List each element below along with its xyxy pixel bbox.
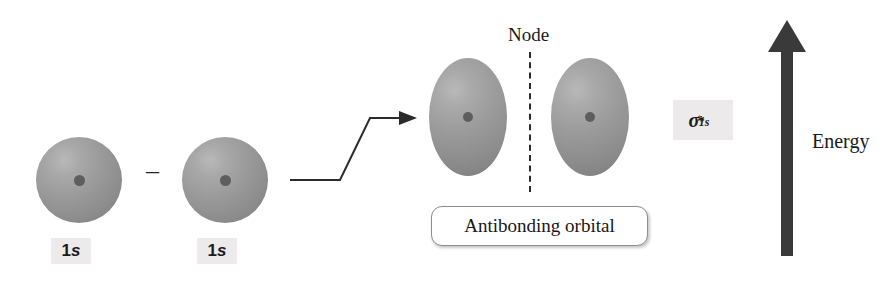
one-s-subscript: 1s [699,115,710,130]
nucleus-dot [463,112,473,122]
energy-arrow-shape [768,20,806,256]
orbital-label-1s-left-number: 1 [62,241,71,261]
nucleus-dot [220,175,231,186]
nucleus-dot [585,112,595,122]
antibonding-lobe-right [551,58,629,176]
antibonding-lobe-left [429,58,507,176]
node-label: Node [508,24,549,46]
node-line [529,52,531,192]
orbital-label-1s-left: 1s [51,238,91,264]
orbital-label-1s-left-letter: s [71,241,80,261]
orbital-diagram: 1s – 1s Node Antibonding orbital σ*1s En… [0,0,890,284]
nucleus-dot [74,175,85,186]
atomic-orbital-1s-right [182,137,268,223]
orbital-label-1s-right: 1s [197,238,237,264]
transform-arrow-path [290,118,415,180]
orbital-label-1s-right-letter: s [217,241,226,261]
atomic-orbital-1s-left [36,137,122,223]
antibonding-orbital-caption: Antibonding orbital [431,206,648,246]
orbital-label-1s-right-number: 1 [208,241,217,261]
minus-operator: – [146,158,159,184]
sigma-star-1s-symbol: σ*1s [673,100,733,140]
energy-axis-label: Energy [812,130,869,153]
